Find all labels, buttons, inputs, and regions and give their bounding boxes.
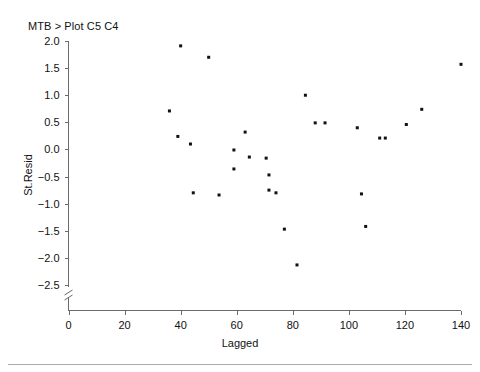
data-point (265, 157, 268, 160)
data-point (378, 137, 381, 140)
data-point (283, 228, 286, 231)
data-point (176, 135, 179, 138)
axes-group (65, 41, 462, 311)
y-tick-label: −1.5 (38, 225, 60, 237)
data-point (295, 263, 298, 266)
data-point (304, 94, 307, 97)
footer-divider (8, 364, 472, 365)
data-point (248, 156, 251, 159)
x-tick-label: 120 (396, 319, 414, 331)
y-tick-label: 0.0 (44, 143, 59, 155)
y-tick-label: −2.5 (38, 279, 60, 291)
scatter-plot-chart: −2.5−2.0−1.5−1.0−0.50.00.51.01.52.0 0204… (0, 0, 480, 372)
y-tick-label: −0.5 (38, 171, 60, 183)
x-tick-label: 80 (287, 319, 299, 331)
y-tick-label: 1.0 (44, 89, 59, 101)
data-point (232, 167, 235, 170)
data-point (420, 108, 423, 111)
data-point (244, 131, 247, 134)
x-tick-label: 40 (175, 319, 187, 331)
data-point (267, 173, 270, 176)
x-tick-label: 140 (452, 319, 470, 331)
data-point (384, 137, 387, 140)
data-point (274, 191, 277, 194)
data-point (460, 63, 463, 66)
data-point (360, 192, 363, 195)
y-tick-label: 1.5 (44, 62, 59, 74)
data-point (168, 109, 171, 112)
data-point (356, 126, 359, 129)
y-tick-label: −2.0 (38, 252, 60, 264)
data-point (314, 121, 317, 124)
data-point (189, 143, 192, 146)
data-point (364, 225, 367, 228)
data-point (179, 44, 182, 47)
data-point (232, 148, 235, 151)
x-axis-title: Lagged (222, 337, 259, 349)
data-point (218, 193, 221, 196)
x-ticks-group: 020406080100120140 (65, 311, 470, 331)
x-tick-label: 20 (118, 319, 130, 331)
y-tick-label: 0.5 (44, 116, 59, 128)
data-point (207, 56, 210, 59)
data-point (192, 191, 195, 194)
x-tick-label: 0 (65, 319, 71, 331)
y-ticks-group: −2.5−2.0−1.5−1.0−0.50.00.51.01.52.0 (38, 35, 69, 291)
data-point (405, 123, 408, 126)
y-axis-title: St.Resid (22, 154, 34, 196)
minitab-plot-window: MTB > Plot C5 C4 −2.5−2.0−1.5−1.0−0.50.0… (0, 0, 480, 372)
data-point (267, 189, 270, 192)
x-tick-label: 60 (231, 319, 243, 331)
y-tick-label: 2.0 (44, 35, 59, 47)
data-points-group (168, 44, 463, 266)
y-tick-label: −1.0 (38, 198, 60, 210)
data-point (324, 121, 327, 124)
x-tick-label: 100 (340, 319, 358, 331)
